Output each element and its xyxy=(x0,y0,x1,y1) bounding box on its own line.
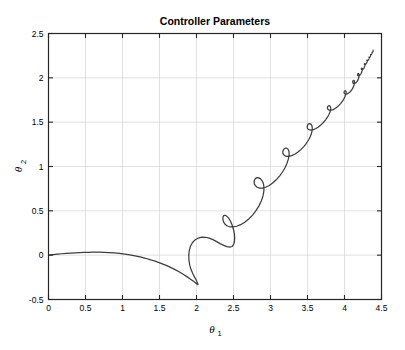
x-tick-label: 3.5 xyxy=(302,303,314,313)
y-tick-label: 2.5 xyxy=(32,29,44,39)
page-title: Controller Parameters xyxy=(160,15,270,27)
chart-figure: 00.511.522.533.544.5 -0.500.511.522.5 Co… xyxy=(0,0,405,350)
y-tick-label: 0 xyxy=(39,250,44,260)
x-axis-label-subscript: 1 xyxy=(218,329,222,338)
y-tick-label: 2 xyxy=(39,73,44,83)
x-tick-label: 2 xyxy=(194,303,199,313)
y-tick-label: -0.5 xyxy=(29,295,44,305)
x-tick-label: 1 xyxy=(120,303,125,313)
x-tick-label: 4.5 xyxy=(376,303,388,313)
x-axis-label-theta: θ xyxy=(209,323,215,335)
y-tick-label: 1 xyxy=(39,162,44,172)
y-axis-label-theta: θ xyxy=(12,166,24,172)
x-tick-label: 3 xyxy=(268,303,273,313)
x-tick-label: 2.5 xyxy=(228,303,240,313)
y-tick-label: 0.5 xyxy=(32,206,44,216)
y-tick-label: 1.5 xyxy=(32,117,44,127)
controller-parameters-chart: 00.511.522.533.544.5 -0.500.511.522.5 Co… xyxy=(0,0,405,350)
x-tick-label: 1.5 xyxy=(154,303,166,313)
x-tick-label: 4 xyxy=(342,303,347,313)
x-tick-label: 0 xyxy=(46,303,51,313)
y-axis-label-subscript: 2 xyxy=(19,160,28,164)
x-tick-label: 0.5 xyxy=(80,303,92,313)
